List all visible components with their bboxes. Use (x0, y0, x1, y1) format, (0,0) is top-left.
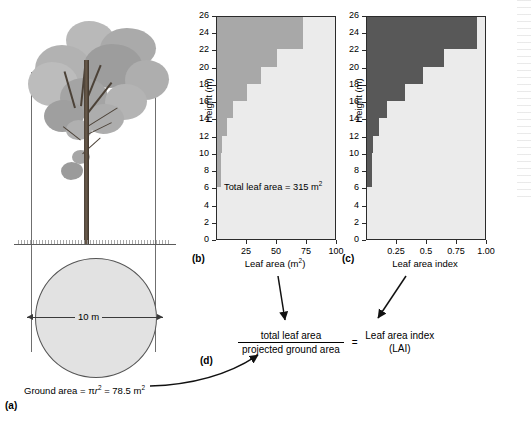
y-axis-tick (212, 33, 216, 34)
bar-segment (217, 83, 247, 101)
equation-equals-sign: = (347, 337, 363, 348)
panel-label-a: (a) (5, 400, 17, 411)
bar-segment (367, 83, 405, 101)
y-axis-tick (362, 223, 366, 224)
bar-segment (217, 100, 233, 118)
panel-label-c: (c) (342, 253, 354, 264)
equation-denominator: projected ground area (238, 342, 344, 355)
y-axis-tick (362, 119, 366, 120)
chart-b-x-axis-title: Leaf area (m2) (216, 258, 334, 269)
y-axis-tick (212, 240, 216, 241)
y-axis-tick (362, 68, 366, 69)
y-axis-tick (362, 85, 366, 86)
y-axis-tick (212, 85, 216, 86)
chart-b-plot-area (216, 16, 336, 240)
y-axis-label: 4 (188, 201, 209, 210)
y-axis-tick (362, 154, 366, 155)
y-axis-label: 6 (188, 183, 209, 192)
bar-segment (367, 118, 379, 136)
panel-b-chart: Height (m) 02468101214161820222426255075… (190, 0, 340, 280)
bar-segment (217, 169, 221, 187)
projection-line-left-lower (31, 244, 32, 352)
x-axis-tick (486, 240, 487, 244)
equation-result: Leaf area index (LAI) (365, 330, 434, 355)
y-axis-label: 4 (338, 201, 359, 210)
y-axis-tick (362, 171, 366, 172)
bar-segment (217, 135, 222, 153)
equation-numerator: total leaf area (238, 330, 344, 342)
chart-b-annotation: Total leaf area = 315 m2 (224, 182, 322, 192)
bar-segment (217, 118, 227, 136)
bar-segment (367, 100, 387, 118)
y-axis-label: 10 (188, 149, 209, 158)
y-axis-label: 16 (188, 97, 209, 106)
y-axis-label: 16 (338, 97, 359, 106)
chart-c-plot-area (366, 16, 486, 240)
y-axis-tick (212, 171, 216, 172)
y-axis-tick (362, 206, 366, 207)
x-axis-label: 0.25 (380, 247, 412, 256)
y-axis-tick (212, 223, 216, 224)
x-axis-label: 25 (230, 247, 262, 256)
tree-trunk (84, 60, 89, 245)
chart-c-x-axis-title: Leaf area index (364, 258, 486, 269)
arrow-from-chart-c (378, 276, 406, 318)
bar-segment (367, 49, 444, 67)
x-axis-tick (456, 240, 457, 244)
diameter-arrowhead-left (27, 314, 33, 320)
x-axis-tick (276, 240, 277, 244)
ground-line (14, 244, 176, 245)
y-axis-tick (362, 137, 366, 138)
projection-line-right-lower (155, 244, 156, 352)
bar-segment (217, 49, 277, 67)
x-axis-tick (396, 240, 397, 244)
equation-fraction: total leaf area projected ground area (238, 330, 344, 355)
x-axis-label: 0.5 (410, 247, 442, 256)
y-axis-label: 6 (338, 183, 359, 192)
x-axis-tick (246, 240, 247, 244)
y-axis-tick (362, 33, 366, 34)
x-axis-tick (426, 240, 427, 244)
y-axis-label: 0 (338, 235, 359, 244)
bar-segment (367, 31, 477, 49)
cropped-text-column (517, 0, 531, 200)
y-axis-tick (212, 102, 216, 103)
y-axis-label: 10 (338, 149, 359, 158)
lai-equation: total leaf area projected ground area = … (238, 330, 434, 355)
y-axis-label: 26 (188, 11, 209, 20)
equation-result-line1: Leaf area index (365, 330, 434, 341)
y-axis-label: 26 (338, 11, 359, 20)
y-axis-label: 0 (188, 235, 209, 244)
bar-segment (367, 169, 372, 187)
arrow-from-chart-b (278, 276, 285, 320)
y-axis-tick (212, 119, 216, 120)
y-axis-tick (362, 188, 366, 189)
y-axis-tick (212, 16, 216, 17)
projection-line-left (31, 72, 32, 244)
y-axis-label: 2 (338, 218, 359, 227)
x-axis-tick (336, 240, 337, 244)
bar-segment (367, 152, 372, 170)
bar-segment (367, 66, 423, 84)
y-axis-tick (212, 68, 216, 69)
y-axis-label: 14 (188, 114, 209, 123)
y-axis-tick (362, 102, 366, 103)
x-axis-tick (306, 240, 307, 244)
y-axis-label: 18 (188, 80, 209, 89)
canopy-blob-lower (61, 162, 83, 180)
y-axis-tick (362, 240, 366, 241)
panel-c-chart: Height (m) 024681012141618202224260.250.… (340, 0, 495, 280)
figure-root: 10 m Ground area = πr2 = 78.5 m2 (a) Hei… (0, 0, 531, 437)
x-axis-label: 50 (260, 247, 292, 256)
y-axis-label: 20 (188, 63, 209, 72)
bar-segment (217, 31, 303, 49)
x-axis-label: 0.75 (440, 247, 472, 256)
panel-label-b: (b) (192, 253, 205, 264)
panel-label-d: (d) (200, 355, 213, 366)
y-axis-tick (212, 137, 216, 138)
y-axis-label: 8 (188, 166, 209, 175)
y-axis-tick (212, 154, 216, 155)
y-axis-label: 8 (338, 166, 359, 175)
y-axis-tick (212, 206, 216, 207)
bar-segment (217, 66, 261, 84)
